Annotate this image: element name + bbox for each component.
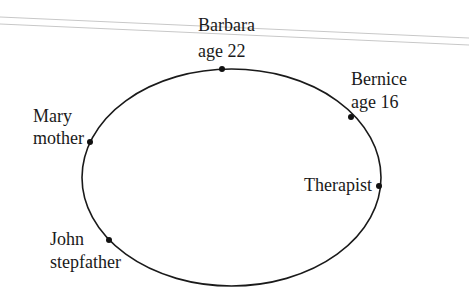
node-dot-therapist [376, 183, 382, 189]
node-role-barbara: age 22 [198, 41, 245, 61]
node-role-john: stepfather [50, 252, 121, 272]
node-dot-barbara [219, 66, 225, 72]
node-name-john: John [50, 229, 84, 249]
node-dot-mary [87, 139, 93, 145]
node-name-bernice: Bernice [351, 69, 407, 89]
node-dot-bernice [348, 114, 354, 120]
node-name-therapist: Therapist [304, 175, 372, 195]
node-role-mary: mother [33, 128, 84, 148]
node-name-barbara: Barbara [198, 15, 255, 35]
family-diagram: Barbara age 22 Bernice age 16 Mary mothe… [0, 0, 469, 300]
node-role-bernice: age 16 [351, 92, 398, 112]
node-name-mary: Mary [33, 106, 72, 126]
node-dot-john [106, 237, 112, 243]
